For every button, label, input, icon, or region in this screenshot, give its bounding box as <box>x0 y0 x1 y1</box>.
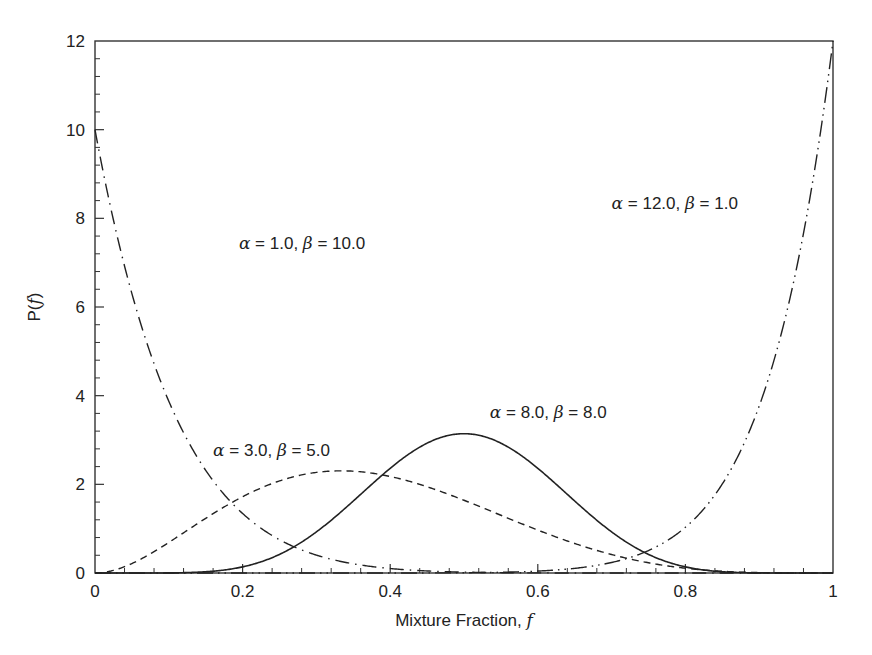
x-tick-label: 0.4 <box>378 582 402 601</box>
series-annotation-3: α = 12.0, β = 1.0 <box>612 193 738 213</box>
series-layer <box>95 41 833 573</box>
series-line-1 <box>95 471 833 573</box>
y-tick-label: 10 <box>66 121 85 140</box>
x-axis: 00.20.40.60.81 <box>90 564 837 601</box>
y-tick-label: 12 <box>66 32 85 51</box>
y-tick-label: 6 <box>76 298 85 317</box>
x-tick-label: 1 <box>828 582 837 601</box>
x-tick-label: 0.6 <box>526 582 550 601</box>
minor-ticks <box>95 59 803 573</box>
series-line-2 <box>95 434 833 573</box>
x-tick-label: 0.8 <box>674 582 698 601</box>
plot-frame <box>95 41 833 573</box>
annotation-layer: α = 1.0, β = 10.0α = 3.0, β = 5.0α = 8.0… <box>213 193 738 459</box>
x-tick-label: 0 <box>90 582 99 601</box>
y-axis: 024681012 <box>66 32 104 583</box>
plot-border <box>95 41 833 573</box>
y-tick-label: 0 <box>76 564 85 583</box>
y-tick-label: 4 <box>76 387 85 406</box>
y-tick-label: 2 <box>76 475 85 494</box>
x-tick-label: 0.2 <box>231 582 255 601</box>
x-axis-label: Mixture Fraction, f <box>395 610 535 630</box>
series-annotation-0: α = 1.0, β = 10.0 <box>239 233 365 253</box>
beta-pdf-chart: 00.20.40.60.81 024681012 α = 1.0, β = 10… <box>0 0 872 655</box>
y-tick-label: 8 <box>76 209 85 228</box>
series-line-3 <box>95 41 833 573</box>
series-annotation-2: α = 8.0, β = 8.0 <box>490 402 607 422</box>
y-axis-label: P(f) <box>24 293 44 322</box>
series-annotation-1: α = 3.0, β = 5.0 <box>213 440 330 460</box>
